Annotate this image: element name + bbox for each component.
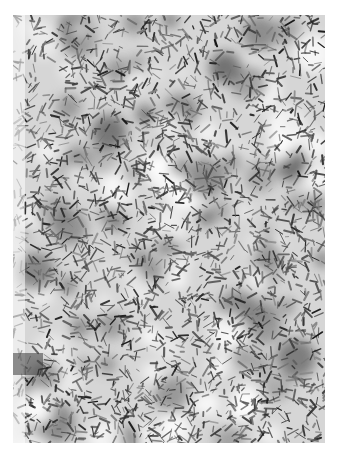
- texture-photo: [13, 15, 325, 443]
- needle-texture: [13, 15, 325, 443]
